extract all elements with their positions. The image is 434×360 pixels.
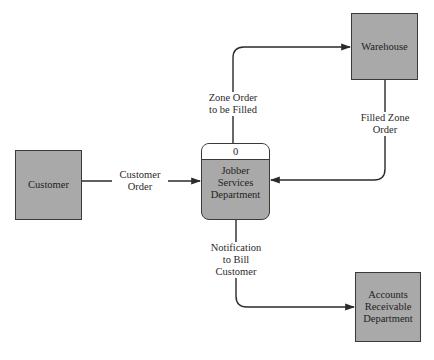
entity-accounts-receivable[interactable]: Accounts Receivable Department bbox=[355, 272, 421, 342]
flow-label-notification: Notification to Bill Customer bbox=[202, 242, 270, 278]
entity-customer[interactable]: Customer bbox=[15, 150, 82, 220]
entity-warehouse[interactable]: Warehouse bbox=[351, 13, 418, 80]
flow-label-customer-order: Customer Order bbox=[112, 169, 168, 193]
process-jobber-services[interactable]: 0 Jobber Services Department bbox=[201, 143, 270, 220]
flow-label-zone-order: Zone Order to be Filled bbox=[200, 92, 266, 116]
process-number: 0 bbox=[202, 144, 269, 160]
process-label: Jobber Services Department bbox=[202, 160, 269, 206]
flow-label-filled-zone-order: Filled Zone Order bbox=[352, 112, 418, 136]
